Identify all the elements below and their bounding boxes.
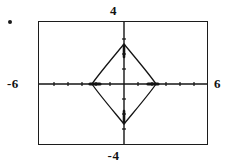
graph-figure: 4 -4 -6 6	[0, 0, 227, 165]
plot-axes	[39, 22, 207, 144]
bullet-marker-icon	[8, 20, 12, 24]
window-xmin-label: -6	[7, 77, 19, 90]
window-ymax-label: 4	[0, 4, 227, 17]
window-xmax-label: 6	[214, 77, 221, 90]
astroid-plot	[38, 21, 208, 145]
window-ymin-label: -4	[0, 149, 227, 162]
